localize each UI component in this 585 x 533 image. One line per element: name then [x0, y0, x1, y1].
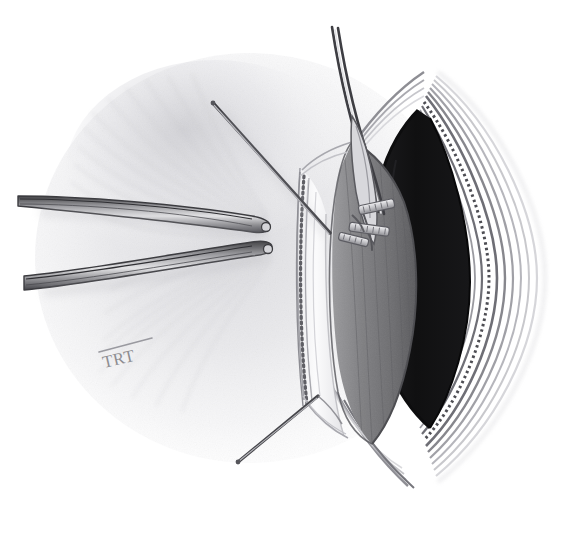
retractor-upper-tip — [262, 223, 271, 232]
retractor-lower-tip — [264, 245, 273, 254]
illustration-canvas: TRT — [0, 0, 585, 533]
surgical-illustration-figure: TRT — [0, 0, 585, 533]
